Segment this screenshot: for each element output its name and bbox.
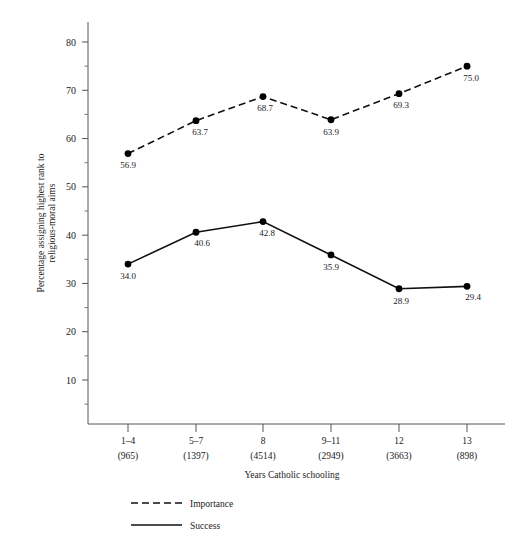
series-point-labels: 56.963.768.763.969.375.034.040.642.835.9…	[120, 73, 481, 306]
x-tick-count: (898)	[457, 451, 478, 462]
data-point-marker	[464, 63, 471, 70]
data-point-label: 40.6	[194, 238, 210, 248]
y-axis-title-line1: Percentage assigning highest rank to	[36, 153, 46, 292]
data-point-label: 29.4	[465, 292, 481, 302]
y-tick-label: 30	[66, 278, 76, 289]
data-point-marker	[193, 117, 200, 124]
x-tick-label: 13	[462, 436, 472, 446]
x-tick-count: (1397)	[183, 451, 208, 462]
x-tick-label: 5–7	[189, 436, 204, 446]
chart-legend: ImportanceSuccess	[131, 499, 233, 531]
y-tick-label: 50	[66, 181, 76, 192]
legend-label-success: Success	[190, 521, 220, 531]
x-axis-title: Years Catholic schooling	[244, 470, 339, 480]
data-point-label: 34.0	[120, 271, 136, 281]
y-tick-label: 80	[66, 37, 76, 48]
y-axis-title: Percentage assigning highest rank to rel…	[36, 153, 57, 292]
y-tick-label: 60	[66, 133, 76, 144]
data-point-marker	[260, 218, 267, 225]
data-point-marker	[328, 252, 335, 259]
x-tick-label: 1–4	[121, 436, 136, 446]
chart-figure: 1020304050607080 1–45–789–111213 (965)(1…	[0, 0, 523, 539]
data-point-marker	[125, 261, 132, 268]
data-point-marker	[396, 285, 403, 292]
x-tick-label: 9–11	[322, 436, 341, 446]
y-tick-label: 10	[66, 375, 76, 386]
data-point-marker	[396, 90, 403, 97]
series-line-importance	[128, 66, 467, 153]
y-axis-tick-labels: 1020304050607080	[66, 37, 76, 386]
y-tick-label: 40	[66, 230, 76, 241]
data-point-label: 68.7	[257, 103, 273, 113]
data-point-label: 56.9	[120, 160, 136, 170]
x-axis-tick-counts: (965)(1397)(4514)(2949)(3663)(898)	[118, 451, 478, 462]
chart-svg: 1020304050607080 1–45–789–111213 (965)(1…	[0, 0, 523, 539]
data-point-label: 28.9	[393, 296, 409, 306]
data-point-marker	[125, 150, 132, 157]
data-point-label: 69.3	[393, 100, 409, 110]
y-tick-label: 20	[66, 326, 76, 337]
data-point-marker	[193, 229, 200, 236]
y-tick-label: 70	[66, 85, 76, 96]
x-axis-tick-labels: 1–45–789–111213	[121, 436, 472, 446]
x-tick-count: (965)	[118, 451, 139, 462]
data-point-marker	[260, 93, 267, 100]
x-axis-ticks	[128, 424, 467, 432]
x-tick-count: (3663)	[386, 451, 411, 462]
legend-label-importance: Importance	[190, 499, 233, 509]
data-point-label: 63.7	[192, 127, 208, 137]
data-point-label: 75.0	[463, 73, 479, 83]
data-point-marker	[464, 283, 471, 290]
series-line-success	[128, 222, 467, 289]
data-point-label: 42.8	[259, 228, 275, 238]
series-lines	[128, 66, 467, 289]
x-tick-count: (2949)	[318, 451, 343, 462]
x-tick-label: 12	[394, 436, 404, 446]
x-tick-count: (4514)	[250, 451, 275, 462]
data-point-label: 35.9	[323, 262, 339, 272]
y-axis-title-line2: religious-moral aims	[47, 183, 57, 262]
data-point-label: 63.9	[323, 127, 339, 137]
x-tick-label: 8	[261, 436, 266, 446]
data-point-marker	[328, 116, 335, 123]
series-markers	[125, 63, 471, 292]
